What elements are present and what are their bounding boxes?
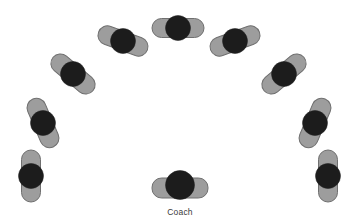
player-head xyxy=(272,62,297,87)
player-figure[interactable] xyxy=(152,16,204,41)
formation-diagram-svg: Coach xyxy=(0,0,364,223)
player-figure[interactable] xyxy=(316,150,341,202)
player-head xyxy=(223,29,248,54)
coach-head xyxy=(166,171,195,200)
coach-label: Coach xyxy=(167,207,193,217)
player-head xyxy=(303,111,328,136)
formation-diagram-canvas: Coach xyxy=(0,0,364,223)
player-head xyxy=(166,16,191,41)
player-head xyxy=(316,164,341,189)
player-head xyxy=(31,111,56,136)
player-head xyxy=(111,29,136,54)
player-head xyxy=(61,62,86,87)
player-figure[interactable] xyxy=(19,150,44,202)
player-head xyxy=(19,164,44,189)
